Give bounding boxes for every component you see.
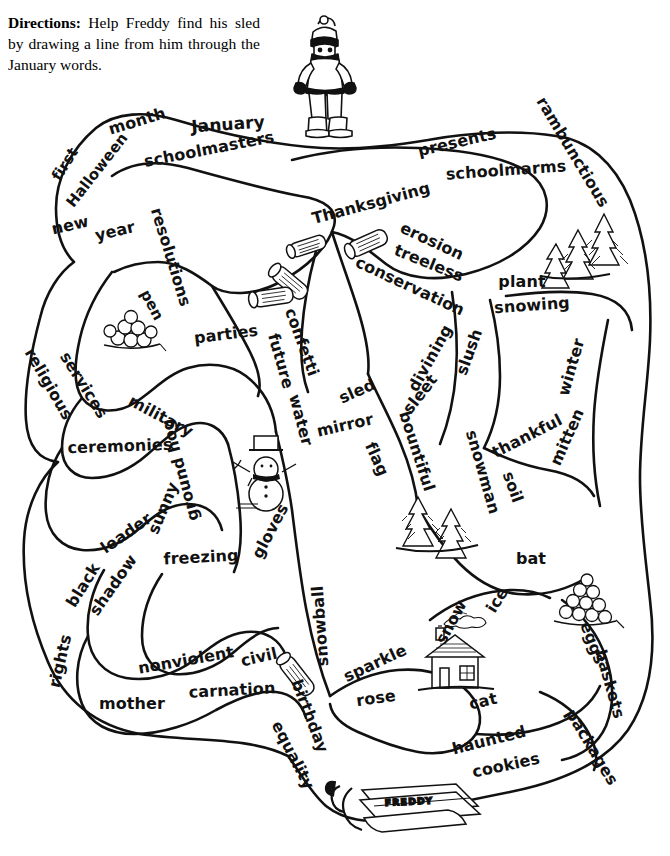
maze-word: flag	[361, 439, 393, 479]
maze-word: pen	[137, 287, 168, 324]
maze-word: Halloween	[62, 129, 131, 210]
maze-word: water	[285, 392, 317, 448]
maze-word: leader	[97, 509, 155, 558]
maze-word: plant	[498, 272, 545, 291]
maze-word: freezing	[163, 546, 239, 569]
maze-word: snow	[432, 597, 471, 648]
maze-word: cookies	[470, 749, 541, 782]
maze-word: winter	[554, 336, 588, 398]
maze-word: civil	[239, 644, 279, 671]
maze-word: rose	[355, 686, 397, 710]
maze-word: new	[50, 212, 91, 239]
maze-word: bat	[516, 549, 546, 568]
maze-word: snowing	[494, 293, 571, 317]
maze-word: mother	[99, 694, 165, 713]
maze-word: mirror	[315, 409, 375, 440]
maze-word: ceremonies	[67, 435, 173, 458]
maze-word: sled	[336, 375, 378, 408]
maze-word: cat	[467, 689, 499, 714]
maze-word: presents	[416, 124, 498, 160]
worksheet-page: Directions: Help Freddy find his sled by…	[0, 0, 670, 856]
maze-word: slush	[452, 326, 486, 377]
maze-word: baskets	[591, 647, 629, 720]
maze-word: Thanksgiving	[310, 178, 432, 228]
maze-word: gloves	[248, 500, 293, 561]
maze-word: rambunctious	[533, 93, 614, 210]
maze-word: ice	[482, 584, 512, 616]
maze-word: first	[48, 144, 82, 184]
maze-word: sparkle	[340, 640, 409, 686]
maze-word: nonviolent	[137, 642, 236, 678]
maze-word: snowball	[308, 585, 333, 667]
maze-word: bountiful	[395, 409, 439, 494]
word-layer: monthJanuaryschoolmastersfirstHalloweenn…	[0, 0, 670, 856]
maze-word: year	[93, 217, 137, 245]
maze-word: rights	[45, 633, 76, 690]
maze-word: soil	[499, 469, 528, 505]
maze-word: carnation	[188, 678, 276, 702]
maze-word: parties	[193, 321, 259, 348]
maze-word: schoolmarms	[445, 156, 567, 183]
